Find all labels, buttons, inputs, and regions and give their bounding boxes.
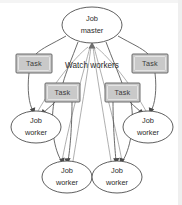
node-job-worker-right[interactable]: Job worker xyxy=(123,111,173,143)
edge-task-left-inner-to-bottom-left-b xyxy=(68,102,72,161)
edge-master-to-task-right-outer xyxy=(118,36,148,54)
job-worker-right-label-line2: worker xyxy=(136,128,160,137)
job-worker-left-label-line1: Job xyxy=(30,116,42,125)
job-worker-right-label-line1: Job xyxy=(142,116,154,125)
job-worker-left-label-line2: worker xyxy=(24,128,48,137)
edge-task-right-outer-to-worker-right xyxy=(151,73,156,111)
task-left-outer-label: Task xyxy=(26,59,42,68)
watch-workers-annotation: Watch workers xyxy=(65,61,119,70)
job-worker-bottom-left-label-line2: worker xyxy=(55,178,79,187)
edge-master-to-task-left-outer xyxy=(36,36,66,54)
node-task-left-inner[interactable]: Task xyxy=(45,83,80,102)
node-task-left-outer[interactable]: Task xyxy=(16,54,52,73)
node-job-master[interactable]: Job master xyxy=(62,7,122,43)
node-job-worker-left[interactable]: Job worker xyxy=(11,111,61,143)
job-topology-diagram: Job master Watch workers Task Task Task … xyxy=(0,0,182,205)
node-task-right-outer[interactable]: Task xyxy=(132,54,168,73)
task-right-outer-label: Task xyxy=(142,59,158,68)
job-worker-bottom-right-label-line1: Job xyxy=(111,166,123,175)
task-right-inner-label: Task xyxy=(115,88,131,97)
job-master-label-line2: master xyxy=(81,26,104,35)
node-job-worker-bottom-left[interactable]: Job worker xyxy=(42,161,92,193)
diagram-canvas: Job master Watch workers Task Task Task … xyxy=(0,0,182,205)
node-task-right-inner[interactable]: Task xyxy=(105,83,140,102)
job-worker-bottom-right-label-line2: worker xyxy=(105,178,129,187)
task-left-inner-label: Task xyxy=(55,88,71,97)
edge-task-left-outer-to-worker-left xyxy=(28,73,33,111)
task-worker-edge-group xyxy=(52,102,132,165)
node-job-worker-bottom-right[interactable]: Job worker xyxy=(92,161,142,193)
job-worker-bottom-left-label-line1: Job xyxy=(61,166,73,175)
job-master-label-line1: Job xyxy=(86,14,98,23)
